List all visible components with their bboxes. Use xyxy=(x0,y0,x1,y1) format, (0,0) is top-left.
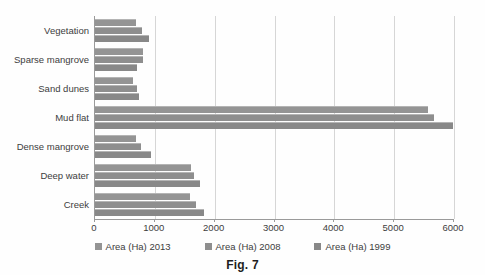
x-axis-label: 0 xyxy=(91,222,96,234)
x-axis-tick-labels: 0100020003000400050006000 xyxy=(0,222,485,236)
bar-group xyxy=(95,103,454,132)
plot-area xyxy=(94,16,454,220)
bar-group xyxy=(95,16,454,45)
x-axis-tick xyxy=(453,219,454,222)
bar-group xyxy=(95,45,454,74)
x-axis-tick xyxy=(154,219,155,222)
bar xyxy=(95,201,196,208)
legend-label: Area (Ha) 1999 xyxy=(325,241,390,252)
y-axis-label: Dense mangrove xyxy=(1,142,89,152)
y-axis-label: Sparse mangrove xyxy=(1,55,89,65)
bar xyxy=(95,56,143,63)
legend-swatch-icon xyxy=(314,243,321,250)
y-axis-label: Vegetation xyxy=(1,26,89,36)
legend-item[interactable]: Area (Ha) 2013 xyxy=(95,241,171,252)
x-axis-tick xyxy=(274,219,275,222)
bar xyxy=(95,106,428,113)
bar xyxy=(95,27,142,34)
bar xyxy=(95,122,453,129)
figure-caption: Fig. 7 xyxy=(0,258,485,272)
legend-swatch-icon xyxy=(205,243,212,250)
gridline-6000 xyxy=(454,16,455,219)
bar-group xyxy=(95,132,454,161)
legend-label: Area (Ha) 2008 xyxy=(216,241,281,252)
bar xyxy=(95,19,136,26)
y-axis-label: Mud flat xyxy=(1,113,89,123)
bar xyxy=(95,114,434,121)
bar xyxy=(95,193,190,200)
y-axis-label: Deep water xyxy=(1,171,89,181)
legend-item[interactable]: Area (Ha) 2008 xyxy=(205,241,281,252)
y-axis-category-labels: VegetationSparse mangroveSand dunesMud f… xyxy=(0,16,89,219)
legend-swatch-icon xyxy=(95,243,102,250)
x-axis-label: 6000 xyxy=(442,222,463,234)
x-axis-label: 2000 xyxy=(203,222,224,234)
x-axis-label: 4000 xyxy=(323,222,344,234)
x-axis-label: 1000 xyxy=(143,222,164,234)
bar xyxy=(95,151,151,158)
chart-legend: Area (Ha) 2013Area (Ha) 2008Area (Ha) 19… xyxy=(0,241,485,252)
bar xyxy=(95,135,136,142)
bar xyxy=(95,172,194,179)
bar xyxy=(95,143,141,150)
y-axis-label: Sand dunes xyxy=(1,84,89,94)
x-axis-tick xyxy=(393,219,394,222)
bar xyxy=(95,35,149,42)
bar xyxy=(95,164,191,171)
bar-group xyxy=(95,74,454,103)
bar-group xyxy=(95,161,454,190)
bar xyxy=(95,85,137,92)
bar xyxy=(95,93,139,100)
y-axis-label: Creek xyxy=(1,200,89,210)
legend-label: Area (Ha) 2013 xyxy=(106,241,171,252)
x-axis-tick xyxy=(214,219,215,222)
bar xyxy=(95,64,137,71)
bar xyxy=(95,48,143,55)
bar xyxy=(95,180,200,187)
x-axis-tick xyxy=(333,219,334,222)
bar xyxy=(95,209,204,216)
x-axis-label: 5000 xyxy=(383,222,404,234)
x-axis-label: 3000 xyxy=(263,222,284,234)
bar-group xyxy=(95,190,454,219)
x-axis-tick xyxy=(94,219,95,222)
bar xyxy=(95,77,133,84)
legend-item[interactable]: Area (Ha) 1999 xyxy=(314,241,390,252)
figure-7: VegetationSparse mangroveSand dunesMud f… xyxy=(0,0,485,275)
